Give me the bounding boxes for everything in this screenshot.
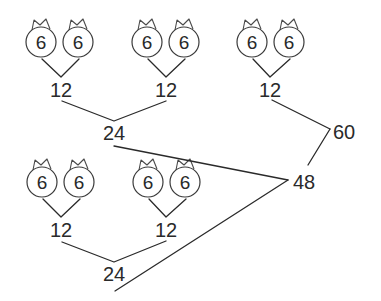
edge-g4g5-to-bottom-24	[62, 241, 166, 262]
leaf-group-g3: 6612	[237, 19, 304, 101]
node-top-24: 24	[103, 122, 125, 144]
leaf-node: 6	[133, 159, 163, 197]
group-sum: 12	[155, 79, 177, 101]
leaf-connector	[148, 59, 185, 77]
node-48: 48	[293, 171, 315, 193]
leaf-value: 6	[142, 32, 153, 53]
leaf-connector	[42, 59, 79, 77]
edge-g3-to-60	[272, 100, 330, 129]
leaf-value: 6	[73, 32, 84, 53]
leaf-node: 6	[63, 19, 93, 57]
leaf-group-g4: 6612	[27, 159, 94, 241]
leaf-value: 6	[37, 172, 48, 193]
edge-g1g2-to-top-24	[62, 101, 166, 121]
leaf-value: 6	[247, 32, 258, 53]
leaf-value: 6	[180, 172, 191, 193]
leaf-value: 6	[74, 172, 85, 193]
sum-tree-diagram: 66126612661266126612 24 24 48 60	[0, 0, 381, 301]
node-60: 60	[333, 121, 355, 143]
leaf-node: 6	[237, 19, 267, 57]
leaf-group-g5: 6612	[133, 159, 200, 241]
leaf-layer: 66126612661266126612	[26, 19, 304, 241]
leaf-node: 6	[27, 159, 57, 197]
leaf-node: 6	[132, 19, 162, 57]
node-bottom-24: 24	[103, 263, 125, 285]
leaf-connector	[253, 59, 290, 77]
edge-bottom-24-to-48	[115, 180, 288, 291]
leaf-node: 6	[274, 19, 304, 57]
group-sum: 12	[259, 79, 281, 101]
leaf-value: 6	[36, 32, 47, 53]
group-sum: 12	[50, 79, 72, 101]
group-sum: 12	[155, 219, 177, 241]
group-sum: 12	[50, 219, 72, 241]
edge-48-to-60	[308, 129, 330, 165]
leaf-node: 6	[169, 19, 199, 57]
leaf-value: 6	[143, 172, 154, 193]
leaf-connector	[149, 199, 186, 217]
leaf-node: 6	[26, 19, 56, 57]
leaf-value: 6	[284, 32, 295, 53]
leaf-value: 6	[179, 32, 190, 53]
leaf-group-g2: 6612	[132, 19, 199, 101]
leaf-group-g1: 6612	[26, 19, 93, 101]
leaf-node: 6	[64, 159, 94, 197]
leaf-connector	[43, 199, 80, 217]
leaf-node: 6	[170, 159, 200, 197]
